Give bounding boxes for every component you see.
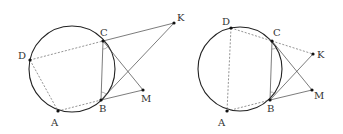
label-a: A: [217, 117, 226, 128]
point-b: [268, 98, 271, 101]
geometry-diagram: D C B A K M D C B A K M: [0, 0, 343, 134]
figure-left: D C B A K M: [18, 12, 185, 128]
point-c: [270, 39, 273, 42]
label-d: D: [222, 16, 230, 27]
segment-dc: [231, 28, 272, 41]
segment-bm: [270, 90, 312, 100]
label-c: C: [273, 27, 281, 38]
point-d: [28, 58, 31, 61]
segment-ab: [227, 100, 270, 111]
label-a: A: [50, 117, 59, 128]
point-k: [172, 21, 175, 24]
label-m: M: [314, 90, 324, 101]
segment-da: [227, 28, 231, 111]
segment-ck: [103, 23, 174, 41]
label-k: K: [317, 49, 325, 60]
figure-right: D C B A K M: [198, 16, 325, 128]
point-a: [56, 109, 59, 112]
angle-arc-c: [103, 47, 108, 49]
label-b: B: [99, 103, 106, 114]
segment-cb: [270, 41, 272, 100]
segment-da: [30, 60, 58, 111]
point-m: [141, 88, 144, 91]
label-c: C: [100, 27, 108, 38]
angle-arc-b: [101, 92, 106, 94]
label-k: K: [177, 12, 185, 23]
point-k: [311, 52, 314, 55]
point-b: [99, 98, 102, 101]
point-c: [101, 39, 104, 42]
segment-bm: [101, 90, 143, 100]
segment-bk: [101, 23, 174, 100]
point-a: [225, 109, 228, 112]
segment-cb: [101, 41, 103, 100]
segment-bk: [270, 54, 313, 100]
segment-cm: [272, 41, 312, 90]
label-b: B: [267, 103, 274, 114]
angle-arc-c: [272, 48, 277, 50]
circle-right: [198, 27, 282, 111]
segment-cm: [103, 41, 143, 90]
label-m: M: [141, 93, 151, 104]
label-d: D: [18, 50, 26, 61]
segment-dc: [30, 41, 103, 60]
